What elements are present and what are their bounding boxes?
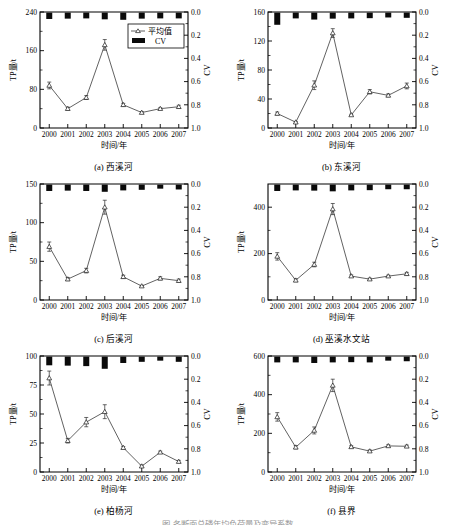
x-tick-label: 2005 xyxy=(134,302,149,311)
cv-bar xyxy=(330,357,336,363)
cv-tick-label: 1.0 xyxy=(419,296,429,305)
y-axis-label: TP量/t xyxy=(9,402,18,425)
plot-b: 040801201600.00.20.40.60.81.020002001200… xyxy=(228,0,455,158)
mean-line xyxy=(277,209,407,280)
y-tick-label: 400 xyxy=(254,390,266,399)
cv-bar xyxy=(385,357,391,361)
legend-mean-label: 平均值 xyxy=(148,26,172,36)
plot-frame xyxy=(268,356,416,472)
data-point xyxy=(367,89,372,93)
x-tick-label: 2003 xyxy=(97,130,112,139)
cv-tick-label: 0.2 xyxy=(191,31,201,40)
cv-tick-label: 0.4 xyxy=(191,226,201,235)
data-point xyxy=(102,409,107,413)
plot-c: 0501001500.00.20.40.60.81.02000200120022… xyxy=(0,172,227,330)
chart-svg-f: 02004006000.00.20.40.60.81.0200020012002… xyxy=(228,344,455,502)
cv-tick-label: 1.0 xyxy=(191,296,201,305)
x-tick-label: 2003 xyxy=(325,302,340,311)
panel-caption-c: (c) 后溪河 xyxy=(0,332,227,344)
x-tick-label: 2000 xyxy=(270,302,285,311)
y-tick-label: 0 xyxy=(33,296,37,305)
cv-tick-label: 0.6 xyxy=(191,77,201,86)
y-axis-label: TP量/t xyxy=(237,230,246,253)
x-tick-label: 2005 xyxy=(362,130,377,139)
x-tick-label: 2002 xyxy=(307,474,322,483)
cv-bar xyxy=(367,13,373,19)
x-tick-label: 2002 xyxy=(307,302,322,311)
cv-bar xyxy=(102,357,108,369)
x-axis-label: 时间/年 xyxy=(329,484,355,494)
panel-e: 02550751000.00.20.40.60.81.0200020012002… xyxy=(0,344,227,519)
y-tick-label: 0 xyxy=(261,296,265,305)
panel-caption-a: (a) 西溪河 xyxy=(0,160,227,172)
cv-bar xyxy=(367,357,373,363)
y-tick-label: 100 xyxy=(26,352,38,361)
cv-tick-label: 1.0 xyxy=(191,124,201,133)
cv-tick-label: 0.6 xyxy=(419,421,429,430)
x-tick-label: 2003 xyxy=(97,474,112,483)
cv-tick-label: 1.0 xyxy=(419,124,429,133)
x-tick-label: 2007 xyxy=(171,302,186,311)
cv-tick-label: 0.4 xyxy=(419,398,429,407)
cv-bar xyxy=(83,357,89,367)
y-tick-label: 120 xyxy=(254,37,266,46)
cv-bar xyxy=(348,13,354,19)
data-point xyxy=(404,84,409,88)
data-point xyxy=(84,420,89,424)
cv-bar xyxy=(274,13,280,25)
y-tick-label: 200 xyxy=(254,249,266,258)
cv-tick-label: 0.8 xyxy=(191,445,201,454)
y-tick-label: 75 xyxy=(29,381,37,390)
x-axis-label: 时间/年 xyxy=(101,140,127,150)
y-tick-label: 80 xyxy=(257,66,265,75)
y-axis-label: TP量/t xyxy=(9,58,18,81)
cv-axis-label: CV xyxy=(431,408,440,419)
y-tick-label: 160 xyxy=(26,46,38,55)
cv-tick-label: 0.8 xyxy=(419,101,429,110)
cv-bar xyxy=(330,13,336,19)
cv-bar xyxy=(139,357,145,362)
cv-bar xyxy=(46,13,52,19)
cv-bar xyxy=(120,185,126,191)
x-tick-label: 2006 xyxy=(381,130,396,139)
cv-tick-label: 0.8 xyxy=(419,273,429,282)
cv-bar xyxy=(311,185,317,191)
x-tick-label: 2006 xyxy=(381,302,396,311)
plot-frame xyxy=(268,12,416,128)
cv-axis-label: CV xyxy=(431,236,440,247)
x-tick-label: 2000 xyxy=(270,130,285,139)
mean-line xyxy=(49,45,179,113)
cv-tick-label: 0.2 xyxy=(191,203,201,212)
x-tick-label: 2007 xyxy=(399,130,414,139)
data-point xyxy=(275,254,280,258)
cv-bar xyxy=(176,185,182,190)
data-point xyxy=(121,445,126,449)
panel-c: 0501001500.00.20.40.60.81.02000200120022… xyxy=(0,172,227,347)
cv-tick-label: 0.0 xyxy=(419,352,429,361)
x-axis-label: 时间/年 xyxy=(329,312,355,322)
mean-line xyxy=(49,207,179,286)
cv-bar xyxy=(46,357,52,366)
panel-caption-d: (d) 巫溪水文站 xyxy=(228,332,455,344)
x-tick-label: 2006 xyxy=(153,302,168,311)
x-axis-label: 时间/年 xyxy=(101,312,127,322)
x-tick-label: 2004 xyxy=(116,302,131,311)
x-tick-label: 2006 xyxy=(381,474,396,483)
x-tick-label: 2003 xyxy=(97,302,112,311)
panel-caption-e: (e) 柏杨河 xyxy=(0,504,227,516)
cv-bar xyxy=(120,13,126,20)
cv-bar xyxy=(102,13,108,20)
cv-tick-label: 0.6 xyxy=(191,421,201,430)
cv-tick-label: 0.4 xyxy=(419,54,429,63)
x-tick-label: 2001 xyxy=(288,130,303,139)
data-point xyxy=(312,428,317,432)
cv-bar xyxy=(65,357,71,366)
cv-bar xyxy=(293,13,299,19)
panel-b: 040801201600.00.20.40.60.81.020002001200… xyxy=(228,0,455,175)
y-tick-label: 240 xyxy=(26,8,38,17)
chart-svg-d: 02004000.00.20.40.60.81.0200020012002200… xyxy=(228,172,455,330)
cv-tick-label: 0.4 xyxy=(419,226,429,235)
x-tick-label: 2001 xyxy=(288,302,303,311)
cv-tick-label: 0.6 xyxy=(419,249,429,258)
data-point xyxy=(330,383,335,387)
